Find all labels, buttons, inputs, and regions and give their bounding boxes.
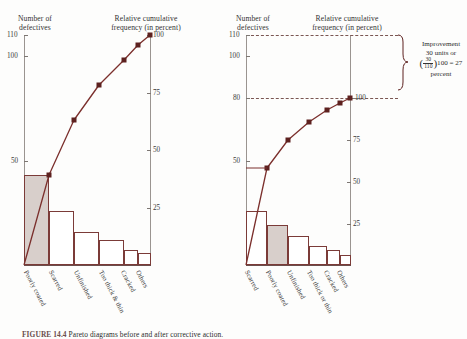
- figure-caption-label: FIGURE 14.4: [22, 330, 67, 339]
- figure-caption: FIGURE 14.4 Pareto diagrams before and a…: [22, 330, 223, 339]
- improvement-annotation: Improvement 30 units or (30110)100 = 27 …: [410, 40, 467, 78]
- pareto-chart-before: Number of defectives Relative cumulative…: [0, 0, 222, 320]
- annotation-tail: 100 = 27: [437, 59, 462, 67]
- annotation-line4: percent: [431, 70, 452, 78]
- left-plot-area: 110 100 50 100 75 50 25: [0, 0, 222, 300]
- right-plot-area: 110 100 80 50 100 75 50 25: [222, 0, 445, 300]
- annotation-fraction: 30110: [423, 57, 433, 70]
- figure-caption-text: Pareto diagrams before and after correct…: [69, 330, 224, 339]
- pareto-chart-after: Number of defectives Relative cumulative…: [222, 0, 445, 320]
- annotation-denominator: 110: [423, 64, 433, 70]
- annotation-line1: Improvement: [422, 40, 460, 48]
- left-cumulative-curve: [0, 0, 222, 300]
